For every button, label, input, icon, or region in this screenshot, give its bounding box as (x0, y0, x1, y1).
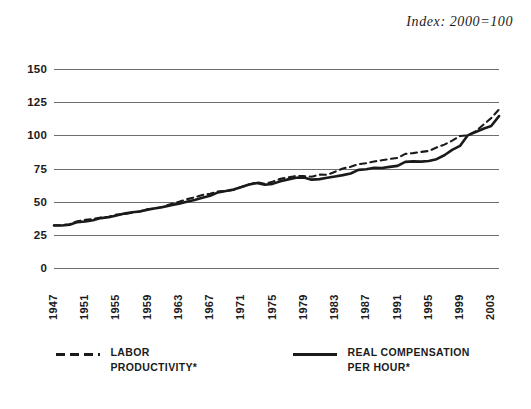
x-axis-label-1971: 1971 (234, 294, 246, 320)
legend-label-real-compensation-per-hour: REAL COMPENSATION PER HOUR* (348, 345, 476, 375)
x-axis-label-1983: 1983 (328, 294, 340, 320)
x-axis-label-1963: 1963 (172, 294, 184, 320)
legend-item-labor-productivity: LABOR PRODUCTIVITY* (56, 345, 239, 375)
series-line-labor-productivity (54, 109, 499, 225)
productivity-compensation-chart: Index: 2000=100 1501251007550250 1947195… (0, 0, 531, 409)
x-axis-label-1999: 1999 (453, 294, 465, 320)
x-axis-label-1967: 1967 (203, 294, 215, 320)
y-axis-label-75: 75 (34, 163, 47, 175)
y-axis-label-50: 50 (34, 196, 47, 208)
y-axis-label-25: 25 (34, 229, 47, 241)
legend-label-labor-productivity: LABOR PRODUCTIVITY* (111, 345, 239, 375)
x-axis-label-1955: 1955 (109, 294, 121, 320)
series-layer (54, 69, 499, 268)
legend-swatch-solid-line-icon (293, 348, 337, 360)
chart-subtitle: Index: 2000=100 (406, 14, 513, 30)
legend-item-real-compensation-per-hour: REAL COMPENSATION PER HOUR* (293, 345, 476, 375)
x-axis-label-1991: 1991 (391, 294, 403, 320)
plot-area: 1501251007550250 (54, 69, 499, 268)
y-axis-label-125: 125 (27, 96, 47, 108)
x-axis-label-1951: 1951 (78, 294, 90, 320)
gridline-0: 0 (54, 268, 499, 269)
x-axis-tick-labels: 1947195119551959196319671971197519791983… (54, 272, 499, 320)
x-axis-label-1979: 1979 (297, 294, 309, 320)
chart-legend: LABOR PRODUCTIVITY*REAL COMPENSATION PER… (0, 345, 531, 375)
x-axis-label-1975: 1975 (266, 294, 278, 320)
legend-swatch-dashed-line-icon (56, 348, 100, 360)
y-axis-label-100: 100 (27, 129, 47, 141)
x-axis-label-1995: 1995 (422, 294, 434, 320)
x-axis-label-2003: 2003 (484, 294, 496, 320)
y-axis-label-0: 0 (40, 262, 47, 274)
x-axis-label-1959: 1959 (141, 294, 153, 320)
y-axis-label-150: 150 (27, 63, 47, 75)
x-axis-label-1947: 1947 (47, 294, 59, 320)
series-line-real-compensation-per-hour (54, 116, 499, 225)
x-axis-label-1987: 1987 (359, 294, 371, 320)
